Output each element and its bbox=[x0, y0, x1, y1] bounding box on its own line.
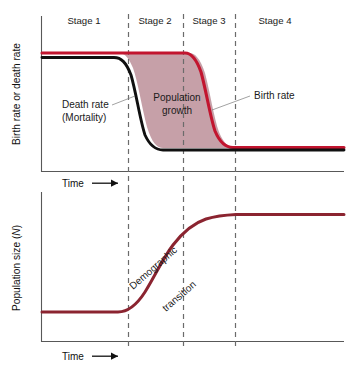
figure-canvas: Stage 1 Stage 2 Stage 3 Stage 4 Death ra… bbox=[0, 0, 347, 371]
bottom-panel: Demographic transition Population size (… bbox=[11, 188, 344, 362]
demographic-transition-figure: Stage 1 Stage 2 Stage 3 Stage 4 Death ra… bbox=[0, 0, 347, 371]
bottom-y-axis-label: Population size (N) bbox=[11, 225, 22, 311]
bottom-y-axis-label-close: ) bbox=[11, 225, 22, 228]
top-y-axis-label: Birth rate or death rate bbox=[11, 43, 22, 145]
death-rate-label-line2: (Mortality) bbox=[62, 112, 106, 123]
death-rate-leader-line bbox=[112, 96, 135, 105]
birth-rate-leader-line bbox=[212, 96, 250, 110]
stage-label-1: Stage 1 bbox=[67, 15, 100, 26]
death-rate-label-line1: Death rate bbox=[62, 99, 109, 110]
stage-label-4: Stage 4 bbox=[258, 15, 292, 26]
birth-rate-label: Birth rate bbox=[254, 90, 295, 101]
stage-label-2: Stage 2 bbox=[138, 15, 171, 26]
demographic-transition-label-line2: transition bbox=[160, 279, 198, 314]
bottom-y-axis-label-main: Population size ( bbox=[11, 235, 22, 311]
top-x-axis-label: Time bbox=[62, 178, 84, 189]
demographic-transition-label-line1: Demographic bbox=[127, 244, 179, 291]
stage-label-3: Stage 3 bbox=[192, 15, 225, 26]
bottom-x-axis-label: Time bbox=[62, 351, 84, 362]
bottom-x-axis-arrow-icon bbox=[92, 353, 118, 360]
population-growth-label-line1: Population bbox=[153, 92, 200, 103]
top-panel: Stage 1 Stage 2 Stage 3 Stage 4 Death ra… bbox=[11, 14, 344, 189]
population-size-curve bbox=[42, 215, 344, 313]
top-x-axis-arrow-icon bbox=[92, 180, 118, 187]
population-growth-label-line2: growth bbox=[162, 105, 192, 116]
